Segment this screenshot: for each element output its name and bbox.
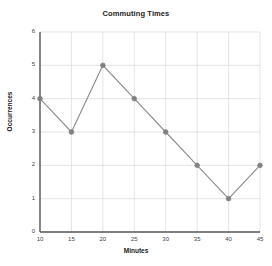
chart-title: Commuting Times: [0, 9, 272, 18]
data-point-marker: [69, 130, 74, 135]
x-tick-label: 15: [59, 236, 83, 242]
y-tick-label: 2: [17, 161, 35, 167]
y-tick-label: 6: [17, 28, 35, 34]
data-point-marker: [195, 163, 200, 168]
data-point-marker: [132, 96, 137, 101]
y-tick-label: 0: [17, 228, 35, 234]
y-axis-label: Occurrences: [6, 82, 13, 142]
data-point-marker: [258, 163, 263, 168]
y-tick-label: 3: [17, 128, 35, 134]
x-tick-label: 35: [185, 236, 209, 242]
data-point-marker: [163, 130, 168, 135]
plot-area: [40, 32, 260, 232]
x-tick-label: 30: [154, 236, 178, 242]
y-tick-label: 5: [17, 61, 35, 67]
x-axis-label: Minutes: [0, 247, 272, 254]
chart-container: Commuting Times Occurrences Minutes 0123…: [0, 0, 272, 266]
data-point-marker: [100, 63, 105, 68]
data-point-marker: [38, 96, 43, 101]
plot-svg: [40, 32, 260, 232]
x-tick-label: 10: [28, 236, 52, 242]
y-tick-label: 1: [17, 195, 35, 201]
x-tick-label: 25: [122, 236, 146, 242]
x-tick-label: 20: [91, 236, 115, 242]
y-tick-label: 4: [17, 95, 35, 101]
x-tick-label: 45: [248, 236, 272, 242]
data-point-marker: [226, 196, 231, 201]
x-tick-label: 40: [217, 236, 241, 242]
